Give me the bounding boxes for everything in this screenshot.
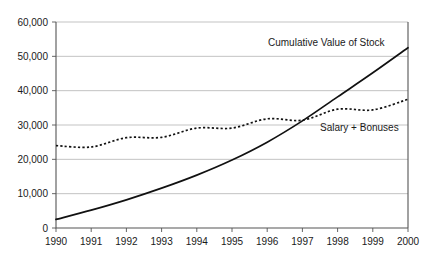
x-axis-tick-label: 1994 bbox=[186, 236, 209, 247]
y-axis-tick-label: 30,000 bbox=[17, 120, 48, 131]
x-axis-tick-label: 1998 bbox=[326, 236, 349, 247]
y-axis-tick-label: 10,000 bbox=[17, 188, 48, 199]
x-axis-tick-label: 1991 bbox=[80, 236, 103, 247]
x-axis-tick-label: 1999 bbox=[362, 236, 385, 247]
x-axis-tick-label: 1996 bbox=[256, 236, 279, 247]
x-axis-tick-label: 1992 bbox=[115, 236, 138, 247]
x-axis-tick-label: 1990 bbox=[45, 236, 68, 247]
y-axis-tick-label: 60,000 bbox=[17, 17, 48, 28]
y-axis-tick-label: 50,000 bbox=[17, 51, 48, 62]
series-label-salary-plus-bonuses: Salary + Bonuses bbox=[320, 122, 399, 133]
x-axis-tick-label: 1993 bbox=[150, 236, 173, 247]
y-axis-tick-label: 20,000 bbox=[17, 154, 48, 165]
y-axis-tick-label: 40,000 bbox=[17, 85, 48, 96]
x-axis-labels-group: 1990199119921993199419951996199719981999… bbox=[45, 236, 420, 247]
x-axis-tick-label: 1997 bbox=[291, 236, 314, 247]
x-axis-tick-label: 1995 bbox=[221, 236, 244, 247]
x-axis-tick-label: 2000 bbox=[397, 236, 420, 247]
y-axis-tick-label: 0 bbox=[42, 223, 48, 234]
series-label-cumulative-value-of-stock: Cumulative Value of Stock bbox=[268, 37, 386, 48]
line-chart: 010,00020,00030,00040,00050,00060,000 19… bbox=[0, 0, 432, 261]
chart-container: 010,00020,00030,00040,00050,00060,000 19… bbox=[0, 0, 432, 261]
